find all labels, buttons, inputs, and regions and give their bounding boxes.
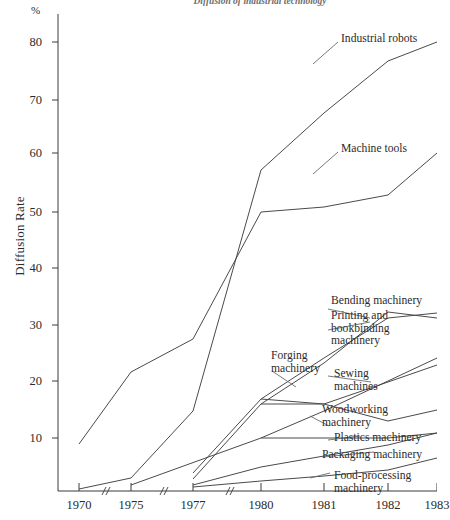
series-forging-machinery: [131, 358, 437, 485]
series-label-forging-machinery: Forging machinery: [271, 350, 320, 375]
series-label-woodworking-machinery: Woodworking machinery: [322, 404, 388, 429]
series-label-food-processing: Food-processing machinery: [334, 470, 411, 495]
series-label-sewing-machines: Sewing machines: [334, 368, 378, 393]
y-tick-marks: [52, 42, 58, 438]
series-label-plastics-machinery: Plastics machinery: [334, 432, 421, 445]
series-label-machine-tools: Machine tools: [341, 143, 407, 156]
series-label-bending-machinery: Bending machinery: [331, 295, 422, 308]
series-label-industrial-robots: Industrial robots: [341, 33, 417, 46]
series-label-packaging-machinery: Packaging machinery: [322, 449, 422, 462]
series-label-printing-bookbinding: Printing and bookbinding machinery: [331, 310, 390, 348]
